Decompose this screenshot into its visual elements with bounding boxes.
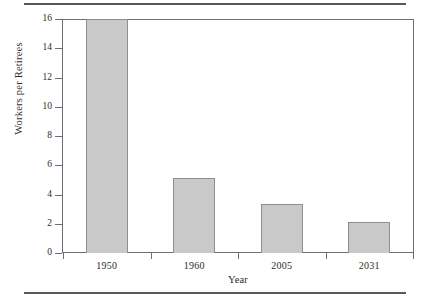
x-axis-tick [413, 253, 414, 259]
x-axis-title: Year [63, 274, 413, 285]
y-axis-tick-label: 16 [6, 14, 52, 24]
y-axis-tick-label: 12 [6, 73, 52, 83]
x-axis-tick-label: 1960 [151, 260, 239, 271]
y-axis-tick-label: 6 [6, 160, 52, 170]
y-axis-tick [55, 78, 62, 79]
x-axis-labels: 1950196020052031 [63, 260, 413, 271]
y-axis-tick [55, 195, 62, 196]
x-axis-tick [151, 253, 152, 259]
x-axis-tick-label: 1950 [63, 260, 151, 271]
bar-2031[interactable] [348, 222, 390, 253]
y-axis-tick-label: 4 [6, 190, 52, 200]
y-axis-tick [55, 224, 62, 225]
bars-container [63, 20, 413, 253]
y-axis-tick-label: 0 [6, 248, 52, 258]
bar-1950[interactable] [86, 19, 128, 253]
bar-slot [151, 20, 239, 253]
x-axis-tick-label: 2031 [326, 260, 414, 271]
bar-chart-figure: Workers per Retirees 1614121086420 19501… [0, 0, 430, 304]
bar-2005[interactable] [261, 204, 303, 253]
y-axis-tick-label: 8 [6, 131, 52, 141]
bar-slot [63, 20, 151, 253]
bar-slot [326, 20, 414, 253]
y-axis-tick [55, 136, 62, 137]
page-rule-bottom [24, 292, 406, 294]
y-axis-tick-label: 10 [6, 102, 52, 112]
y-axis-tick-label: 14 [6, 43, 52, 53]
y-axis-tick [55, 19, 62, 20]
x-axis-tick [238, 253, 239, 259]
y-axis-tick [55, 107, 62, 108]
page-rule-top [24, 3, 406, 5]
x-axis-tick [63, 253, 64, 259]
y-axis-tick-label: 2 [6, 219, 52, 229]
y-axis-tick [55, 165, 62, 166]
x-axis-tick [326, 253, 327, 259]
bar-1960[interactable] [173, 178, 215, 253]
y-axis-tick [55, 253, 62, 254]
y-axis-tick [55, 48, 62, 49]
x-axis-tick-label: 2005 [238, 260, 326, 271]
bar-slot [238, 20, 326, 253]
